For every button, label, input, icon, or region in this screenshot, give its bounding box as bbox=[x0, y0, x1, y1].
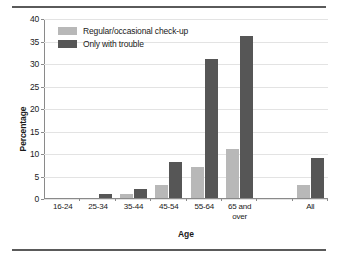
y-tick-label: 15 bbox=[30, 127, 39, 137]
x-tick-label: 16-24 bbox=[45, 202, 80, 222]
x-tick-label: 45-54 bbox=[151, 202, 186, 222]
bottom-divider-rule bbox=[12, 249, 326, 251]
y-tick-label: 25 bbox=[30, 82, 39, 92]
x-tick-mark bbox=[79, 198, 80, 201]
legend-item: Regular/occasional check-up bbox=[58, 24, 188, 37]
x-axis-title: Age bbox=[44, 229, 328, 239]
x-tick-label: All bbox=[293, 202, 328, 222]
chart-legend: Regular/occasional check-upOnly with tro… bbox=[58, 24, 188, 50]
y-tick-mark bbox=[41, 199, 44, 200]
chart-figure: Percentage 0510152025303540 16-2425-3435… bbox=[0, 0, 338, 257]
bar bbox=[297, 185, 310, 199]
bar bbox=[191, 167, 204, 199]
legend-swatch bbox=[58, 27, 77, 35]
x-tick-label bbox=[257, 202, 292, 222]
bar bbox=[99, 194, 112, 199]
bar bbox=[311, 158, 324, 199]
bar bbox=[205, 59, 218, 199]
x-tick-mark bbox=[221, 198, 222, 201]
y-tick-label: 20 bbox=[30, 104, 39, 114]
y-tick-mark bbox=[41, 132, 44, 133]
y-tick-mark bbox=[41, 64, 44, 65]
x-tick-mark bbox=[115, 198, 116, 201]
bar bbox=[169, 162, 182, 198]
legend-label: Only with trouble bbox=[83, 39, 144, 49]
y-tick-mark bbox=[41, 177, 44, 178]
y-tick-mark bbox=[41, 109, 44, 110]
legend-label: Regular/occasional check-up bbox=[83, 26, 188, 36]
x-tick-mark bbox=[327, 198, 328, 201]
top-divider-rule bbox=[12, 6, 326, 8]
bar bbox=[134, 189, 147, 198]
y-tick-label: 40 bbox=[30, 14, 39, 24]
y-tick-mark bbox=[41, 19, 44, 20]
x-tick-label: 35-44 bbox=[116, 202, 151, 222]
bar bbox=[120, 194, 133, 199]
y-tick-label: 30 bbox=[30, 59, 39, 69]
x-tick-mark bbox=[186, 198, 187, 201]
bar-group bbox=[257, 19, 292, 198]
legend-item: Only with trouble bbox=[58, 37, 188, 50]
x-tick-label: 65 and over bbox=[222, 202, 257, 222]
y-tick-mark bbox=[41, 42, 44, 43]
y-tick-label: 35 bbox=[30, 37, 39, 47]
x-tick-mark bbox=[292, 198, 293, 201]
y-tick-label: 10 bbox=[30, 149, 39, 159]
x-tick-label: 55-64 bbox=[187, 202, 222, 222]
bar-group bbox=[187, 19, 222, 198]
y-tick-label: 5 bbox=[34, 172, 39, 182]
x-tick-label: 25-34 bbox=[80, 202, 115, 222]
bar bbox=[240, 36, 253, 198]
bar-group bbox=[293, 19, 328, 198]
bar bbox=[226, 149, 239, 199]
bar bbox=[155, 185, 168, 199]
x-tick-mark bbox=[150, 198, 151, 201]
bar-group bbox=[222, 19, 257, 198]
y-tick-label: 0 bbox=[34, 194, 39, 204]
y-tick-mark bbox=[41, 87, 44, 88]
legend-swatch bbox=[58, 40, 77, 48]
x-axis-ticks: 16-2425-3435-4445-5455-6465 and overAll bbox=[45, 202, 328, 222]
y-tick-mark bbox=[41, 154, 44, 155]
y-axis-title: Percentage bbox=[18, 106, 28, 151]
x-tick-mark bbox=[256, 198, 257, 201]
